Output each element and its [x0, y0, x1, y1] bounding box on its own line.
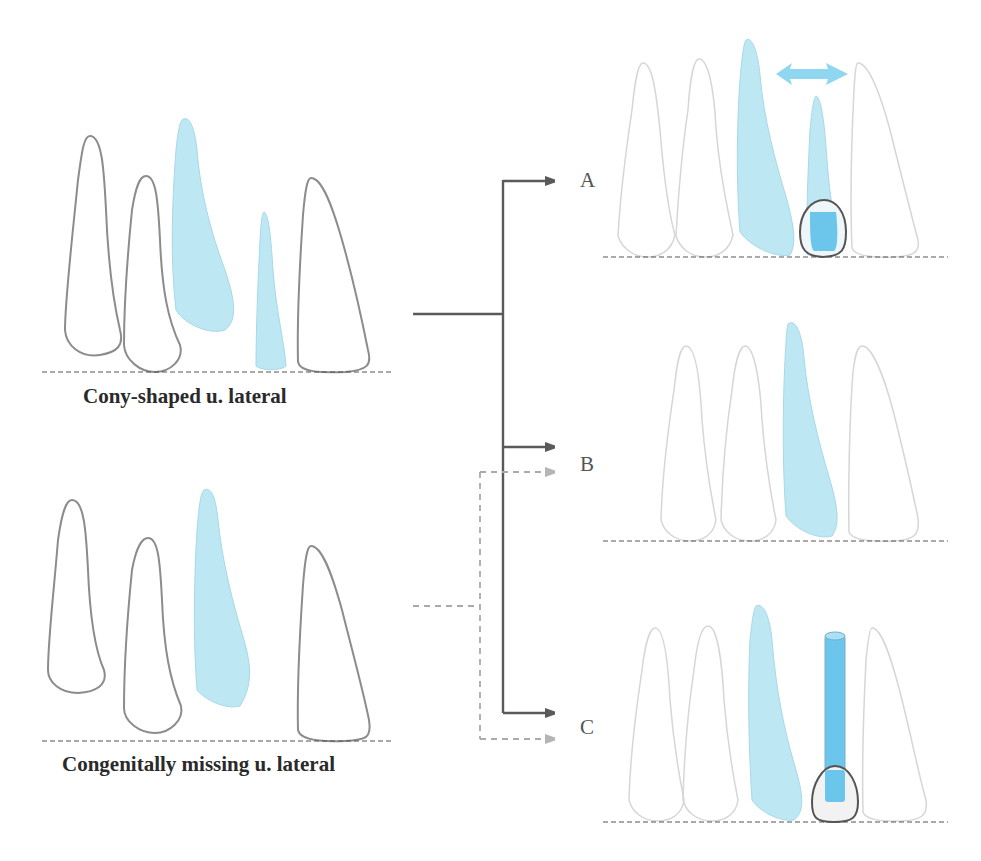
treatment-diagram	[0, 0, 981, 861]
tooth-central-blue	[749, 605, 802, 820]
tooth-premolar	[124, 176, 181, 372]
option-c-illustration	[603, 605, 948, 822]
tooth-central-blue	[783, 323, 837, 537]
condition-caption-cony-shaped: Cony-shaped u. lateral	[83, 384, 287, 409]
tooth-central-right	[298, 178, 370, 372]
flow-arrows-dashed	[413, 472, 553, 739]
option-b-illustration	[603, 323, 948, 542]
missing-lateral-condition-illustration	[42, 489, 394, 741]
arrow-double-horizontal	[776, 63, 848, 85]
condition-caption-missing: Congenitally missing u. lateral	[62, 752, 335, 777]
tooth-central-blue	[172, 119, 233, 332]
tooth-peg-lateral-blue	[256, 212, 286, 370]
option-label-b: B	[580, 452, 594, 477]
tooth-canine	[48, 500, 105, 693]
option-a-illustration	[603, 39, 948, 257]
flow-arrows-solid	[413, 180, 553, 713]
tooth-premolar	[124, 538, 181, 733]
cony-shaped-condition-illustration	[42, 119, 394, 373]
option-label-a: A	[580, 168, 595, 193]
option-label-c: C	[580, 715, 594, 740]
tooth-central-right	[298, 546, 370, 741]
tooth-canine	[65, 136, 121, 355]
tooth-central-blue	[194, 489, 249, 707]
